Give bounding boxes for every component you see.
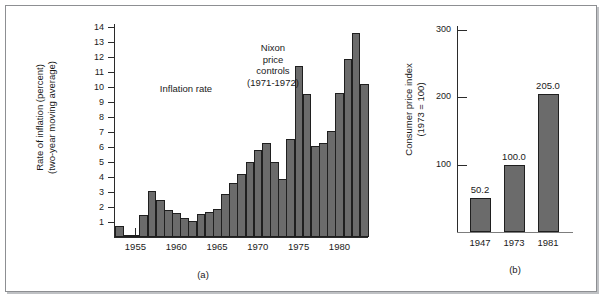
panel-a-y-tick-label: 3 [80, 188, 104, 197]
panel-a-x-tick-label: 1970 [238, 242, 278, 252]
panel-a-y-tick-label: 5 [80, 158, 104, 167]
panel-a-y-tick [108, 87, 115, 88]
panel-a-y-axis-title: Rate of inflation (percent) (two-year mo… [34, 45, 57, 190]
panel-b-data-label: 100.0 [492, 151, 536, 162]
panel-a-y-tick [108, 222, 115, 223]
panel-a-y-tick-label: 4 [80, 173, 104, 182]
panel-b-bar [470, 198, 491, 232]
panel-a-x-tick-label: 1960 [156, 242, 196, 252]
panel-a-x-tick-label: 1980 [319, 242, 359, 252]
figure-root: Rate of inflation (percent) (two-year mo… [0, 0, 603, 302]
panel-a-y-tick [108, 42, 115, 43]
panel-a-y-tick-label: 1 [80, 218, 104, 227]
panel-b-y-tick-label: 100 [421, 160, 451, 169]
panel-a-x-axis [114, 237, 368, 238]
panel-b-y-tick [457, 165, 467, 166]
panel-a-y-tick-label: 14 [80, 23, 104, 32]
panel-a-y-tick [108, 162, 115, 163]
panel-b-consumer-price-index: Consumer price index (1973 = 100) 100200… [396, 6, 596, 291]
panel-b-y-axis [457, 26, 458, 233]
panel-a-y-tick [108, 207, 115, 208]
panel-b-y-tick [457, 97, 467, 98]
figure-frame: Rate of inflation (percent) (two-year mo… [5, 5, 597, 292]
panel-b-x-axis [457, 232, 573, 233]
panel-a-y-tick-label: 10 [80, 83, 104, 92]
panel-a-x-tick-label: 1965 [197, 242, 237, 252]
panel-b-y-tick-label: 300 [421, 25, 451, 34]
panel-b-data-label: 205.0 [526, 80, 570, 91]
panel-a-y-tick [108, 102, 115, 103]
panel-b-y-tick [457, 30, 467, 31]
panel-b-x-tick-label: 1981 [528, 238, 568, 248]
panel-a-y-tick [108, 147, 115, 148]
panel-a-bar [360, 84, 369, 237]
panel-a-annotation-nixon-price-controls: Nixon price controls (1971-1972) [228, 42, 318, 88]
panel-a-y-tick [108, 132, 115, 133]
panel-a-y-tick-label: 6 [80, 143, 104, 152]
panel-a-y-tick-label: 7 [80, 128, 104, 137]
panel-a-y-tick [108, 192, 115, 193]
panel-a-y-tick-label: 13 [80, 38, 104, 47]
panel-a-y-tick [108, 117, 115, 118]
panel-a-y-tick-label: 2 [80, 203, 104, 212]
panel-b-bar [504, 165, 525, 232]
panel-a-y-tick-label: 8 [80, 113, 104, 122]
panel-a-y-tick [108, 57, 115, 58]
panel-a-y-tick-label: 9 [80, 98, 104, 107]
panel-a-y-tick [108, 27, 115, 28]
panel-b-bar [538, 94, 559, 232]
panel-b-y-tick-label: 200 [421, 92, 451, 101]
panel-a-y-tick [108, 72, 115, 73]
panel-a-y-tick-label: 12 [80, 53, 104, 62]
panel-a-y-tick-label: 11 [80, 68, 104, 77]
panel-b-data-label: 50.2 [458, 184, 502, 195]
panel-a-annotation-inflation-rate: Inflation rate [136, 83, 236, 95]
panel-b-caption: (b) [503, 264, 527, 275]
panel-a-inflation-rate: Rate of inflation (percent) (two-year mo… [6, 6, 396, 291]
panel-a-caption: (a) [191, 269, 215, 280]
panel-a-x-tick-label: 1955 [115, 242, 155, 252]
panel-a-y-tick [108, 177, 115, 178]
panel-a-x-tick-label: 1975 [279, 242, 319, 252]
